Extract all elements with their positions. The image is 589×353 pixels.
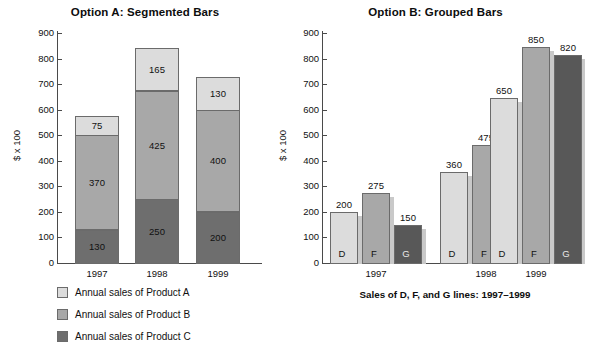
legend-label: Annual sales of Product B [75,309,190,320]
y-tick-label-right: 900 [278,27,319,38]
y-tick-label-right: 200 [278,206,319,217]
chart-title-option-b: Option B: Grouped Bars [290,6,581,18]
y-tick-right [323,186,327,187]
bar-g-1999[interactable] [554,55,582,264]
y-tick-right [323,110,327,111]
legend-item-product-a[interactable]: Annual sales of Product A [57,287,190,298]
bar-f-1999[interactable] [522,47,550,264]
legend-swatch-product-b-icon [57,309,68,320]
bar-value-g-1997: 150 [378,212,438,223]
y-tick-right [323,135,327,136]
chart-panel-option-b: Option B: Grouped Bars $ x 100 900 800 7… [290,0,581,353]
bar-inner-label-d-1998: D [438,248,466,259]
y-tick-label-right: 300 [278,180,319,191]
y-tick-right [323,161,327,162]
y-axis-line-right [322,31,323,264]
y-tick-label-right: 0 [278,257,319,268]
chart-caption-option-b: Sales of D, F, and G lines: 1997–1999 [320,289,570,300]
y-tick-right [323,212,327,213]
y-tick-label-right: 100 [278,231,319,242]
y-tick-label-right: 700 [278,78,319,89]
legend-swatch-product-a-icon [57,287,68,298]
bar-inner-label-d-1997: D [328,248,356,259]
legend-swatch-product-c-icon [57,331,68,342]
bar-inner-label-g-1997: G [392,248,420,259]
bar-inner-label-f-1997: F [360,248,388,259]
bar-d-1999[interactable] [490,98,518,264]
y-tick-label-right: 600 [278,104,319,115]
y-tick-label-right: 800 [278,53,319,64]
y-tick-right [323,237,327,238]
legend-item-product-c[interactable]: Annual sales of Product C [57,331,191,342]
y-tick-label-right: 500 [278,129,319,140]
bar-value-f-1997: 275 [346,180,406,191]
x-category-label-right: 1999 [506,268,566,279]
bar-inner-label-f-1999: F [520,248,548,259]
y-tick-right [323,33,327,34]
legend-label: Annual sales of Product A [75,287,190,298]
y-tick-label-right: 400 [278,155,319,166]
bar-inner-label-d-1999: D [488,248,516,259]
legend-item-product-b[interactable]: Annual sales of Product B [57,309,190,320]
y-axis-title-right: $ x 100 [277,116,288,176]
chart-panel-option-a: Option A: Segmented Bars $ x 100 900 800… [0,0,290,353]
bar-inner-label-g-1999: G [552,248,580,259]
legend-label: Annual sales of Product C [75,331,191,342]
y-tick-right [323,59,327,60]
y-tick-right [323,84,327,85]
legend-option-a: Annual sales of Product A Annual sales o… [0,0,290,353]
bar-value-g-1999: 820 [538,42,589,53]
x-category-label-right: 1997 [346,268,406,279]
